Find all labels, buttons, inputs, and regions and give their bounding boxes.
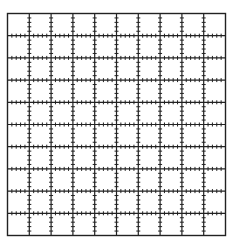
- tick-grid-diagram: [0, 0, 233, 246]
- grid-lines: [8, 14, 226, 236]
